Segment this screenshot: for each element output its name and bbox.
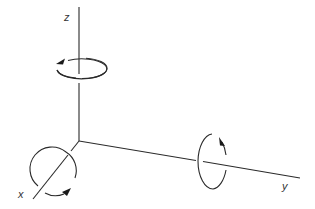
x-axis-label: x <box>17 188 24 200</box>
y-axis-group: y <box>79 134 300 192</box>
z-rotation-arrow-icon <box>56 59 65 65</box>
z-axis-group: z <box>56 7 107 141</box>
z-axis-label: z <box>63 11 70 23</box>
y-axis-line-left <box>79 141 196 161</box>
y-rotation-arrow-icon <box>219 137 225 146</box>
y-axis-line-right <box>203 162 300 179</box>
x-axis-group: x <box>17 141 79 200</box>
y-axis-label: y <box>281 180 289 192</box>
x-rotation-arc-bottom <box>45 193 64 196</box>
z-rotation-arc-front <box>57 70 76 78</box>
x-axis-line-inner <box>71 141 79 151</box>
x-rotation-arc <box>30 147 76 186</box>
z-rotation-arc-front-2 <box>82 58 107 78</box>
rotation-axes-diagram: z y x <box>0 0 315 209</box>
